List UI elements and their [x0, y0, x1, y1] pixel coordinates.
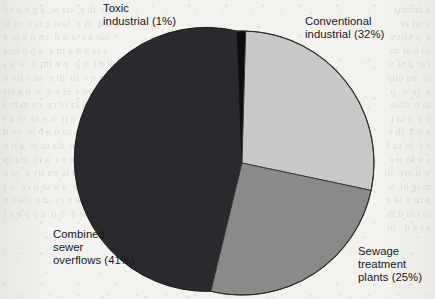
pie-label-conventional-industrial: Conventional industrial (32%) — [305, 15, 384, 41]
pie-label-toxic-industrial: Toxic industrial (1%) — [103, 2, 176, 28]
scanned-page: a dminis u nd er a p olicy su b st an t … — [0, 0, 435, 299]
pie-label-sewage-treatment-plants: Sewage treatment plants (25%) — [358, 245, 422, 284]
pie-label-combined-sewer-overflows: Combined sewer overflows (41%) — [53, 228, 135, 267]
pie-slice-conventional-industrial[interactable] — [242, 31, 374, 190]
